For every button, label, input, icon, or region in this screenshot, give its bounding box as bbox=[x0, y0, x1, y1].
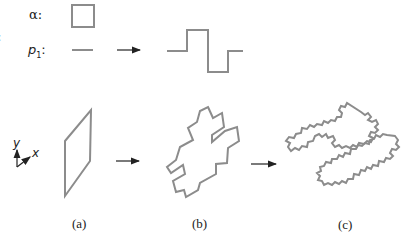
axiom-square bbox=[72, 5, 94, 27]
caption-a: (a) bbox=[72, 216, 86, 232]
diagram-canvas bbox=[0, 0, 412, 244]
caption-b: (b) bbox=[192, 216, 207, 232]
axis-x-label: x bbox=[32, 147, 39, 159]
shape-c bbox=[286, 103, 399, 185]
shape-b bbox=[167, 107, 239, 197]
production-label: p1: bbox=[28, 43, 46, 60]
shape-a bbox=[65, 110, 91, 196]
production-label-colon: : bbox=[41, 42, 45, 57]
axis-y-label: y bbox=[13, 137, 20, 149]
axes-icon bbox=[17, 150, 30, 167]
production-result bbox=[167, 30, 243, 72]
caption-c: (c) bbox=[338, 217, 352, 233]
edge-fragment-label: : bbox=[0, 30, 1, 43]
axiom-label: α: bbox=[29, 8, 42, 21]
